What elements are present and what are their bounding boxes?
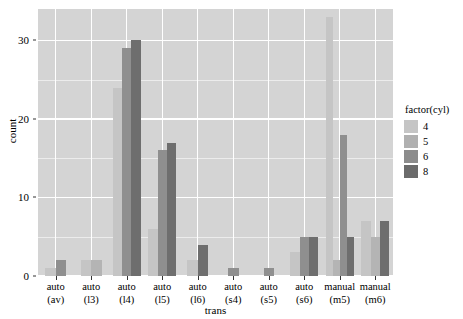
bar (187, 260, 198, 276)
x-tick-mark (162, 276, 163, 280)
legend-item[interactable]: 8 (404, 164, 463, 178)
legend-item-label: 8 (423, 166, 428, 177)
x-tick-mark (233, 276, 234, 280)
x-tick-mark (198, 276, 199, 280)
bar-group (38, 9, 74, 276)
chart-root: count 0102030 auto(av)auto(l3)auto(l4)au… (0, 0, 463, 319)
bar (148, 229, 157, 276)
legend-item-label: 6 (423, 151, 428, 162)
x-tick-label: auto(l3) (82, 281, 100, 306)
legend-item-label: 5 (423, 136, 428, 147)
bar (228, 268, 239, 276)
bar (290, 252, 299, 276)
legend-color-swatch (404, 135, 418, 148)
bar (264, 268, 275, 276)
bar (361, 221, 370, 276)
bar (333, 260, 340, 276)
x-tick-label-line: auto (295, 281, 313, 294)
legend-items: 4568 (404, 119, 463, 178)
x-tick-label: auto(s5) (260, 281, 278, 306)
bar (81, 260, 92, 276)
x-tick-label-line: auto (260, 281, 278, 294)
bar (340, 135, 347, 276)
x-tick-label-line: manual (324, 281, 355, 294)
x-tick-mark (340, 276, 341, 280)
bar-group (358, 9, 394, 276)
bar (326, 17, 333, 276)
x-tick-label: auto(av) (47, 281, 65, 306)
x-tick-mark (304, 276, 305, 280)
bar (167, 143, 176, 277)
x-tick-label-line: auto (189, 281, 207, 294)
x-tick-mark (56, 276, 57, 280)
y-tick-mark (33, 276, 36, 277)
bar-group (145, 9, 181, 276)
plot-panel (38, 9, 393, 276)
x-tick-label: manual(m6) (360, 281, 391, 306)
bar (347, 237, 354, 276)
x-tick-mark (375, 276, 376, 280)
legend-title: factor(cyl) (405, 104, 463, 115)
y-tick-label: 0 (0, 270, 29, 282)
bar (56, 260, 67, 276)
bar (380, 221, 389, 276)
y-tick-mark (33, 118, 36, 119)
x-tick-label: auto(s4) (224, 281, 242, 306)
bar (300, 237, 309, 276)
bar (371, 237, 380, 276)
x-tick-label-line: auto (153, 281, 171, 294)
legend-item[interactable]: 6 (404, 149, 463, 163)
x-tick-label-line: auto (224, 281, 242, 294)
legend-item-label: 4 (423, 121, 428, 132)
y-tick-label: 20 (0, 113, 29, 125)
bar-group (109, 9, 145, 276)
bar (309, 237, 318, 276)
bar-group (251, 9, 287, 276)
bar (122, 48, 131, 276)
bar-group (216, 9, 252, 276)
legend-color-swatch (404, 120, 418, 133)
bar (198, 245, 209, 276)
x-tick-label-line: auto (47, 281, 65, 294)
x-tick-label-line: manual (360, 281, 391, 294)
y-axis-title: count (6, 101, 18, 161)
bar-group (322, 9, 358, 276)
x-tick-label: manual(m5) (324, 281, 355, 306)
y-axis: count 0102030 (0, 0, 36, 319)
bar-group (180, 9, 216, 276)
x-tick-label: auto(l5) (153, 281, 171, 306)
legend-color-swatch (404, 165, 418, 178)
x-tick-label-line: auto (82, 281, 100, 294)
bar-group (74, 9, 110, 276)
x-tick-label-line: auto (118, 281, 136, 294)
bar (158, 150, 167, 276)
x-tick-label: auto(s6) (295, 281, 313, 306)
legend: factor(cyl) 4568 (404, 104, 463, 179)
legend-color-swatch (404, 150, 418, 163)
bar-group (287, 9, 323, 276)
legend-item[interactable]: 4 (404, 119, 463, 133)
y-tick-label: 10 (0, 191, 29, 203)
x-tick-mark (127, 276, 128, 280)
x-tick-mark (91, 276, 92, 280)
y-tick-mark (33, 197, 36, 198)
bar (131, 40, 140, 276)
y-tick-mark (33, 40, 36, 41)
bar (91, 260, 102, 276)
x-tick-label: auto(l6) (189, 281, 207, 306)
bar (45, 268, 56, 276)
y-tick-label: 30 (0, 34, 29, 46)
x-tick-mark (269, 276, 270, 280)
x-axis-title: trans (38, 304, 393, 316)
legend-item[interactable]: 5 (404, 134, 463, 148)
x-tick-label: auto(l4) (118, 281, 136, 306)
bar (113, 88, 122, 276)
